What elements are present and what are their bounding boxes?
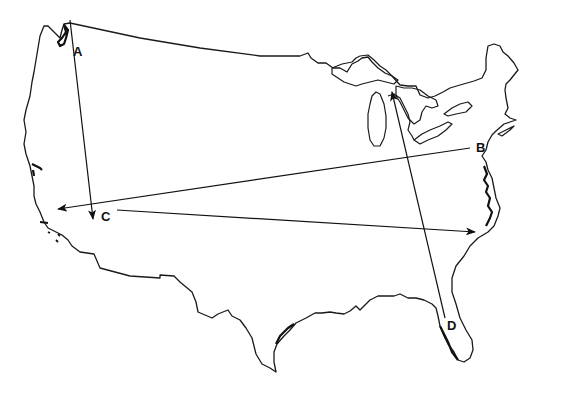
label-a: A — [73, 44, 83, 59]
arrow-labels: A B C D — [73, 44, 485, 333]
arrow-c — [117, 210, 475, 232]
lake-michigan — [368, 92, 386, 146]
us-outline-map: A B C D — [0, 0, 574, 399]
sf-bay — [32, 164, 42, 176]
gulf-coast-detail — [276, 324, 294, 344]
label-d: D — [447, 318, 456, 333]
lake-ontario — [444, 102, 472, 116]
arrow-d — [392, 92, 445, 318]
lake-erie — [414, 122, 452, 144]
lake-huron — [396, 86, 438, 124]
label-c: C — [101, 209, 111, 224]
label-b: B — [476, 140, 485, 155]
lake-superior — [332, 55, 398, 86]
michigan-peninsula — [388, 94, 414, 140]
arrow-b — [58, 148, 470, 209]
us-border-outline — [24, 23, 518, 372]
